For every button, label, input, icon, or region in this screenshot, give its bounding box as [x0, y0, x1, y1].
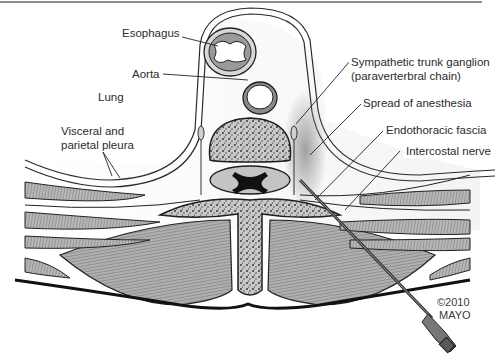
label-ganglion-line2: (paraverterbral chain): [349, 70, 463, 83]
label-endothoracic-fascia: Endothoracic fascia: [384, 124, 488, 137]
esophagus-shape: [204, 28, 256, 76]
label-esophagus: Esophagus: [120, 27, 182, 40]
label-pleura-line1: Visceral and: [59, 125, 126, 138]
label-aorta: Aorta: [130, 68, 162, 81]
copyright-year: ©2010: [437, 296, 470, 309]
copyright-owner: MAYO: [439, 309, 471, 322]
left-paraspinal-muscle: [60, 220, 232, 305]
label-intercostal-nerve: Intercostal nerve: [404, 145, 493, 158]
label-ganglion-line1: Sympathetic trunk ganglion: [349, 56, 492, 69]
label-lung: Lung: [96, 91, 126, 104]
aorta-shape: [243, 82, 277, 114]
label-pleura-line2: parietal pleura: [59, 139, 136, 152]
cross-section-illustration: [0, 0, 495, 362]
anatomical-figure: Esophagus Aorta Lung Visceral and pariet…: [0, 0, 495, 362]
label-spread-of-anesthesia: Spread of anesthesia: [361, 97, 474, 110]
